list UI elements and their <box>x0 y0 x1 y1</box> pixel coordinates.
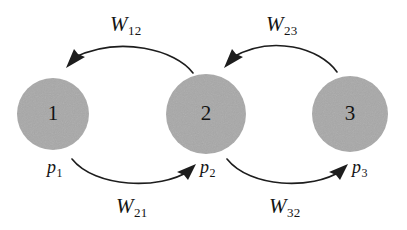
node-2-probability-label: p2 <box>200 158 216 179</box>
transition-diagram-graphics: 1 2 3 <box>0 0 407 230</box>
edge-w32[interactable] <box>227 159 348 183</box>
node-3[interactable]: 3 <box>312 76 388 152</box>
edge-label-w32-sub: 32 <box>287 205 301 220</box>
diagram-canvas: 1 2 3 W12 <box>0 0 407 230</box>
edge-label-w23: W23 <box>266 14 297 37</box>
edge-label-w23-base: W <box>266 12 284 36</box>
node-2-probability-sub: 2 <box>209 166 216 180</box>
edge-w21-arrowhead <box>177 164 196 180</box>
edge-w23-curve <box>231 46 337 72</box>
node-1-probability-label: p1 <box>47 158 63 179</box>
node-3-label: 3 <box>345 101 356 125</box>
node-3-probability-label: p3 <box>352 158 368 179</box>
edge-label-w12-sub: 12 <box>128 23 142 38</box>
edge-w21-curve <box>72 159 189 183</box>
edge-label-w12: W12 <box>110 14 141 37</box>
node-1-label: 1 <box>48 101 59 125</box>
node-3-probability-sub: 3 <box>361 166 368 180</box>
edge-label-w21: W21 <box>116 196 147 219</box>
edge-w32-arrowhead <box>329 164 348 180</box>
edge-w12-curve <box>73 47 193 73</box>
node-3-probability-base: p <box>352 157 361 177</box>
edge-w12[interactable] <box>66 47 193 73</box>
edge-w23-arrowhead <box>224 49 243 68</box>
node-2-probability-base: p <box>200 157 209 177</box>
edge-w32-curve <box>227 159 341 183</box>
edge-label-w32: W32 <box>269 196 300 219</box>
node-1[interactable]: 1 <box>17 78 89 150</box>
edge-label-w12-base: W <box>110 12 128 36</box>
node-2[interactable]: 2 <box>166 74 246 154</box>
edge-label-w21-sub: 21 <box>134 205 148 220</box>
edge-w23[interactable] <box>224 46 337 72</box>
edge-w21[interactable] <box>72 159 196 183</box>
edge-label-w21-base: W <box>116 194 134 218</box>
node-2-label: 2 <box>201 101 212 125</box>
node-1-probability-base: p <box>47 157 56 177</box>
edge-label-w32-base: W <box>269 194 287 218</box>
edge-w12-arrowhead <box>66 49 85 68</box>
node-1-probability-sub: 1 <box>56 166 63 180</box>
edge-label-w23-sub: 23 <box>284 23 298 38</box>
